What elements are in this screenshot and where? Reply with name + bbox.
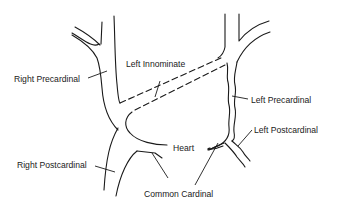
right-precardinal-medial-wall	[114, 16, 120, 103]
leader-left-postcardinal	[238, 130, 252, 146]
heart-outline	[126, 112, 167, 145]
leader-right-precardinal	[88, 71, 107, 78]
right-precardinal-branch-outer	[72, 33, 99, 45]
label-left-precardinal: Left Precardinal	[251, 96, 311, 105]
left-precardinal-wall-right	[232, 62, 237, 141]
right-precardinal-branch-inner	[101, 22, 102, 44]
leader-common-cardinal-right	[195, 143, 218, 185]
label-right-postcardinal: Right Postcardinal	[17, 161, 87, 170]
right-postcardinal-inner	[116, 151, 137, 196]
left-innominate-lower	[135, 65, 225, 110]
label-left-innominate: Left Innominate	[126, 60, 185, 69]
label-right-precardinal: Right Precardinal	[14, 75, 80, 84]
label-left-postcardinal: Left Postcardinal	[254, 126, 318, 135]
label-heart: Heart	[173, 144, 194, 153]
left-precardinal-lateral-top	[239, 14, 269, 41]
left-precardinal-wall-left	[208, 63, 230, 150]
leader-right-postcardinal	[95, 166, 115, 172]
leader-left-innominate	[155, 81, 160, 97]
left-precardinal-medial-top	[218, 14, 225, 58]
right-postcardinal-outer	[104, 128, 118, 190]
left-postcardinal-wall-upper	[232, 141, 250, 161]
diagram-canvas: Right Precardinal Left Innominate Left P…	[0, 0, 341, 209]
common-cardinal-upper	[137, 151, 162, 158]
label-common-cardinal: Common Cardinal	[144, 190, 213, 199]
left-postcardinal-wall-lower	[225, 143, 245, 167]
left-precardinal-branch	[237, 32, 270, 62]
